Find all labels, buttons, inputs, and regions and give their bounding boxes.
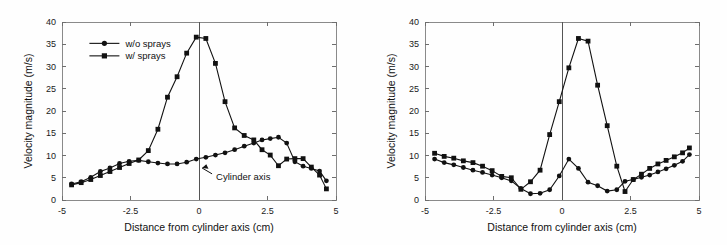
y-tick-label: 25 bbox=[409, 84, 419, 94]
y-tick-label: 25 bbox=[46, 84, 56, 94]
data-point-square bbox=[595, 83, 600, 88]
data-point-square bbox=[639, 172, 644, 177]
legend-marker-square bbox=[102, 53, 107, 58]
data-point-square bbox=[268, 153, 273, 158]
data-point-circle bbox=[538, 191, 543, 196]
data-point-square bbox=[242, 133, 247, 138]
y-tick-label: 30 bbox=[409, 62, 419, 72]
data-point-square bbox=[451, 156, 456, 161]
data-point-circle bbox=[576, 166, 581, 171]
data-point-square bbox=[88, 177, 93, 182]
data-point-circle bbox=[442, 160, 447, 165]
data-point-circle bbox=[687, 152, 692, 157]
x-tick-label: 0 bbox=[559, 206, 564, 216]
data-point-square bbox=[117, 165, 122, 170]
data-point-circle bbox=[242, 144, 247, 149]
legend-marker-circle bbox=[102, 41, 107, 46]
chart-panel-left: -5-2.502.550510152025303540Distance from… bbox=[0, 0, 363, 245]
y-tick-label: 5 bbox=[51, 173, 56, 183]
data-point-square bbox=[213, 61, 218, 66]
annotation-cylinder-axis: Cylinder axis bbox=[216, 171, 271, 182]
x-tick-label: -5 bbox=[421, 206, 429, 216]
data-point-circle bbox=[471, 168, 476, 173]
data-point-square bbox=[146, 148, 151, 153]
data-point-square bbox=[301, 156, 306, 161]
data-point-square bbox=[127, 161, 132, 166]
x-tick-label: -5 bbox=[58, 206, 66, 216]
x-tick-label: 2.5 bbox=[624, 206, 637, 216]
data-point-circle bbox=[451, 162, 456, 167]
data-point-square bbox=[519, 187, 524, 192]
y-tick-label: 15 bbox=[409, 128, 419, 138]
y-tick-label: 0 bbox=[51, 195, 56, 205]
y-tick-label: 35 bbox=[46, 39, 56, 49]
y-tick-label: 20 bbox=[46, 106, 56, 116]
x-tick-label: 5 bbox=[333, 206, 338, 216]
y-tick-label: 0 bbox=[414, 195, 419, 205]
data-point-circle bbox=[566, 157, 571, 162]
data-point-square bbox=[680, 150, 685, 155]
y-tick-label: 40 bbox=[46, 17, 56, 27]
data-point-square bbox=[156, 127, 161, 132]
data-point-circle bbox=[528, 191, 533, 196]
data-point-circle bbox=[432, 157, 437, 162]
data-point-circle bbox=[156, 161, 161, 166]
data-point-circle bbox=[656, 170, 661, 175]
data-point-circle bbox=[664, 166, 669, 171]
data-point-square bbox=[566, 65, 571, 70]
data-point-square bbox=[203, 36, 208, 41]
data-point-square bbox=[623, 189, 628, 194]
y-tick-label: 5 bbox=[414, 173, 419, 183]
data-point-square bbox=[687, 146, 692, 151]
data-point-square bbox=[284, 157, 289, 162]
data-point-square bbox=[547, 132, 552, 137]
data-point-square bbox=[672, 154, 677, 159]
data-point-circle bbox=[614, 187, 619, 192]
left-panel-y-axis-title: Velocity magnitude (m/s) bbox=[22, 54, 34, 169]
right-panel-svg: -5-2.502.550510152025303540Distance from… bbox=[363, 0, 726, 245]
legend-label-1: w/ sprays bbox=[124, 50, 165, 61]
data-point-circle bbox=[175, 162, 180, 167]
data-point-square bbox=[499, 174, 504, 179]
data-point-circle bbox=[595, 183, 600, 188]
annotation-arrowhead bbox=[202, 164, 209, 169]
data-point-square bbox=[184, 51, 189, 56]
data-point-square bbox=[509, 175, 514, 180]
y-tick-label: 40 bbox=[409, 17, 419, 27]
data-point-circle bbox=[605, 189, 610, 194]
data-point-square bbox=[276, 163, 281, 168]
chart-panel-right: -5-2.502.550510152025303540Distance from… bbox=[363, 0, 726, 245]
data-point-square bbox=[317, 173, 322, 178]
data-point-circle bbox=[586, 180, 591, 185]
data-point-square bbox=[538, 168, 543, 173]
data-point-square bbox=[528, 179, 533, 184]
data-point-square bbox=[631, 177, 636, 182]
x-tick-label: 5 bbox=[696, 206, 701, 216]
data-point-circle bbox=[232, 147, 237, 152]
data-point-square bbox=[576, 36, 581, 41]
data-point-circle bbox=[647, 173, 652, 178]
data-point-circle bbox=[194, 157, 199, 162]
data-point-circle bbox=[324, 178, 329, 183]
data-point-square bbox=[442, 154, 447, 159]
y-tick-label: 10 bbox=[409, 151, 419, 161]
data-point-circle bbox=[146, 159, 151, 164]
data-point-square bbox=[194, 35, 199, 40]
data-point-circle bbox=[623, 179, 628, 184]
annotation-arrow bbox=[202, 168, 212, 174]
y-tick-label: 20 bbox=[409, 106, 419, 116]
data-point-square bbox=[251, 138, 256, 143]
data-point-square bbox=[260, 147, 265, 152]
data-point-square bbox=[223, 99, 228, 104]
x-tick-label: -2.5 bbox=[486, 206, 502, 216]
data-point-square bbox=[98, 173, 103, 178]
data-point-circle bbox=[301, 164, 306, 169]
data-point-square bbox=[614, 164, 619, 169]
data-point-circle bbox=[268, 136, 273, 141]
data-point-square bbox=[108, 169, 113, 174]
data-point-circle bbox=[547, 187, 552, 192]
data-point-square bbox=[647, 166, 652, 171]
x-tick-label: 2.5 bbox=[261, 206, 274, 216]
data-point-circle bbox=[480, 170, 485, 175]
right-panel-y-axis-title: Velocity magnitude (m/s) bbox=[385, 54, 397, 169]
